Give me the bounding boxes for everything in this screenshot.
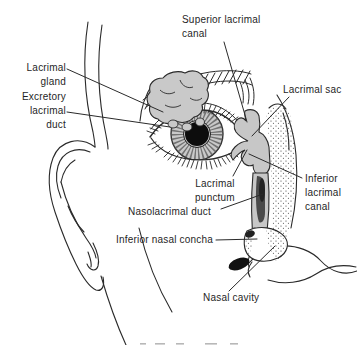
ear xyxy=(49,141,103,290)
label-lacrimal-sac: Lacrimal sac xyxy=(283,83,342,97)
label-excretory-lacrimal-duct: Excretory lacrimal duct xyxy=(10,90,66,132)
label-nasolacrimal-duct: Nasolacrimal duct xyxy=(128,205,211,219)
label-lacrimal-punctum: Lacrimal punctum xyxy=(186,177,244,205)
figure-lacrimal-apparatus: Superior lacrimal canal Lacrimal gland E… xyxy=(0,0,357,345)
nasal-cavity-dark xyxy=(227,255,251,273)
lacrimal-gland-shape xyxy=(147,71,208,131)
label-inferior-nasal-concha: Inferior nasal concha xyxy=(116,233,213,247)
label-superior-lacrimal-canal: Superior lacrimal canal xyxy=(182,13,260,41)
canaliculi-and-sac-shape xyxy=(231,110,270,175)
cropped-caption-remnant xyxy=(140,343,238,345)
jaw-line xyxy=(101,276,126,345)
label-lacrimal-gland: Lacrimal gland xyxy=(18,61,66,89)
anatomy-illustration xyxy=(0,0,357,345)
label-nasal-cavity: Nasal cavity xyxy=(203,291,259,305)
label-inferior-lacrimal-canal: Inferior lacrimal canal xyxy=(305,172,341,214)
